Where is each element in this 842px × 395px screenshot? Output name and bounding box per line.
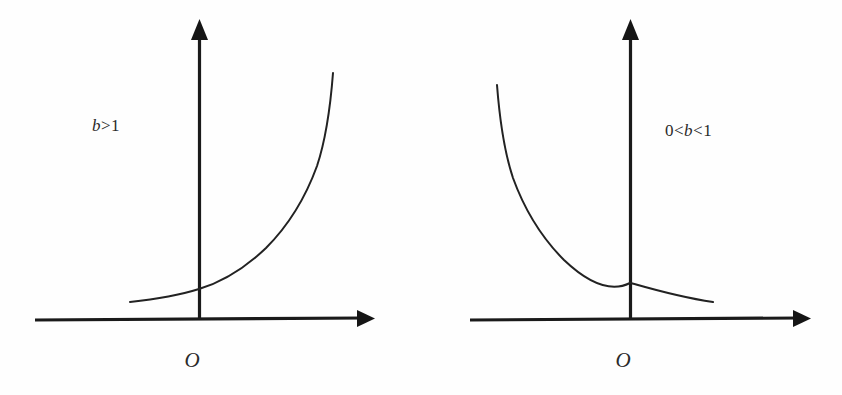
decay-condition-variable: b [684, 121, 693, 140]
decay-curve [497, 85, 713, 302]
exponential-graphs-figure: b>1 O 0<b<1 O [0, 0, 842, 395]
growth-condition-label: b>1 [92, 116, 120, 135]
x-axis-arrow-right [793, 310, 811, 327]
y-axis-arrow-right [622, 19, 639, 40]
decay-panel: 0<b<1 O [470, 19, 811, 372]
decay-condition-prefix: 0< [665, 121, 684, 140]
origin-label-right: O [615, 348, 630, 372]
figure-root: b>1 O 0<b<1 O [0, 0, 842, 395]
y-axis-arrow-left [191, 19, 208, 40]
growth-condition-suffix: >1 [101, 116, 120, 135]
x-axis-line-right [470, 318, 800, 320]
decay-condition-label: 0<b<1 [665, 121, 712, 140]
x-axis-arrow-left [357, 310, 375, 327]
growth-condition-variable: b [92, 116, 101, 135]
origin-label-left: O [184, 348, 199, 372]
growth-curve [130, 73, 333, 302]
growth-panel: b>1 O [35, 19, 375, 372]
decay-condition-suffix: <1 [693, 121, 712, 140]
